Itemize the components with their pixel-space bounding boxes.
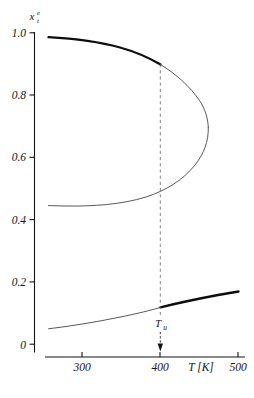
y-tick-label-0.8: 0.8 bbox=[12, 89, 27, 101]
y-axis-title-superscript: e bbox=[37, 9, 40, 17]
y-tick-label-0.4: 0.4 bbox=[12, 214, 27, 226]
x-tick-label-500: 500 bbox=[229, 361, 247, 373]
series-middle-branch-unstable bbox=[49, 128, 209, 207]
y-axis-title: x t e bbox=[29, 9, 41, 25]
chart-figure: 1.0 0.8 0.6 0.4 0.2 0 x t e 300 400 500 … bbox=[0, 0, 254, 398]
t-u-label-subscript: u bbox=[163, 323, 167, 332]
series-upper-branch-metastable bbox=[161, 65, 209, 128]
y-tick-label-0.2: 0.2 bbox=[12, 276, 27, 288]
y-tick-label-0: 0 bbox=[20, 339, 26, 351]
series-lower-branch-stable bbox=[161, 292, 239, 308]
y-tick-marks bbox=[30, 33, 35, 344]
series-upper-branch-stable bbox=[49, 37, 161, 64]
x-tick-labels: 300 400 500 T [K] bbox=[72, 361, 247, 373]
x-axis-title: T [K] bbox=[188, 361, 214, 373]
chart-canvas: 1.0 0.8 0.6 0.4 0.2 0 x t e 300 400 500 … bbox=[0, 0, 254, 398]
y-axis-title-base: x bbox=[29, 10, 35, 22]
curve-group bbox=[49, 37, 239, 329]
y-tick-label-1.0: 1.0 bbox=[12, 27, 27, 39]
axes-group bbox=[35, 32, 246, 357]
x-tick-label-400: 400 bbox=[151, 361, 169, 373]
t-u-arrow-head bbox=[158, 344, 163, 352]
t-u-label-base: T bbox=[155, 317, 162, 329]
y-axis-title-subscript: t bbox=[37, 17, 40, 25]
x-tick-marks bbox=[82, 352, 238, 357]
y-tick-label-0.6: 0.6 bbox=[12, 151, 27, 163]
y-tick-labels: 1.0 0.8 0.6 0.4 0.2 0 bbox=[12, 27, 27, 351]
x-tick-label-300: 300 bbox=[72, 361, 91, 373]
series-lower-branch-metastable bbox=[49, 307, 161, 329]
